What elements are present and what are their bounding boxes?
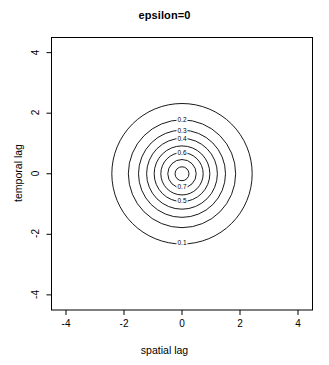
y-axis-ticks bbox=[47, 53, 52, 295]
contour-line bbox=[175, 167, 189, 181]
x-axis-tick-label: -2 bbox=[120, 318, 129, 329]
y-axis-title: temporal lag bbox=[12, 128, 24, 218]
contour-label: 0.1 bbox=[176, 240, 187, 247]
contour-label: 0.6 bbox=[176, 150, 187, 157]
x-axis-ticks bbox=[66, 310, 298, 315]
y-axis-tick-label: -2 bbox=[29, 226, 40, 242]
contour-line bbox=[139, 130, 226, 217]
contour-line bbox=[112, 104, 252, 244]
y-axis-tick-label: -4 bbox=[29, 286, 40, 302]
contour-lines bbox=[112, 104, 252, 244]
x-axis-title: spatial lag bbox=[0, 344, 329, 356]
contour-label: 0.2 bbox=[176, 117, 187, 124]
contour-plot-figure: epsilon=0 -4-2024 -4-2024 0.10.20.30.40.… bbox=[0, 0, 329, 365]
y-axis-tick-label: 2 bbox=[29, 105, 40, 121]
contour-label: 0.3 bbox=[176, 128, 187, 135]
contour-label: 0.7 bbox=[176, 184, 187, 191]
y-axis-tick-label: 0 bbox=[29, 165, 40, 181]
y-axis-tick-label: 4 bbox=[29, 44, 40, 60]
plot-canvas bbox=[0, 0, 329, 365]
x-axis-tick-label: 2 bbox=[237, 318, 243, 329]
x-axis-tick-label: 4 bbox=[295, 318, 301, 329]
contour-label: 0.5 bbox=[176, 197, 187, 204]
plot-box bbox=[52, 38, 313, 311]
x-axis-tick-label: 0 bbox=[179, 318, 185, 329]
x-axis-tick-label: -4 bbox=[62, 318, 71, 329]
contour-label: 0.4 bbox=[176, 136, 187, 143]
